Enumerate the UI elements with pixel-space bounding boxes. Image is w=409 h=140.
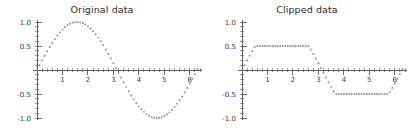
- data-point: [133, 98, 135, 100]
- data-point: [82, 22, 84, 24]
- data-point: [140, 108, 142, 110]
- data-point: [163, 115, 165, 117]
- data-point: [161, 116, 163, 118]
- data-point: [320, 67, 322, 69]
- data-point: [284, 45, 286, 47]
- x-axis-tick-label: 1: [60, 76, 64, 84]
- data-point: [135, 102, 137, 104]
- y-axis-tick-label: 1.0: [20, 19, 31, 27]
- x-axis-tick-label: 5: [367, 76, 371, 84]
- data-point: [289, 45, 291, 47]
- data-point: [184, 91, 186, 93]
- data-point: [351, 93, 353, 95]
- x-axis-tick-label: 4: [342, 76, 347, 84]
- data-point: [41, 60, 43, 62]
- data-point: [46, 50, 48, 52]
- y-axis-tick-label: -0.5: [222, 91, 236, 99]
- data-point: [194, 73, 196, 75]
- data-point: [261, 45, 263, 47]
- data-point: [189, 82, 191, 84]
- data-point: [95, 33, 97, 35]
- data-point: [79, 21, 81, 23]
- data-point: [54, 38, 56, 40]
- data-point: [62, 29, 64, 31]
- data-point: [112, 62, 114, 64]
- data-point: [39, 64, 41, 66]
- data-point: [335, 93, 337, 95]
- data-point: [87, 25, 89, 27]
- data-point: [340, 93, 342, 95]
- data-point: [51, 42, 53, 44]
- data-point: [269, 45, 271, 47]
- data-point: [36, 69, 38, 71]
- data-point: [297, 45, 299, 47]
- data-point: [123, 81, 125, 83]
- data-point: [179, 99, 181, 101]
- data-point: [282, 45, 284, 47]
- data-point: [92, 30, 94, 32]
- figure-canvas: Original data -1.0-0.50.51.0123456 Clipp…: [0, 0, 409, 140]
- data-point: [317, 62, 319, 64]
- data-point: [396, 78, 398, 80]
- original-data-axes: -1.0-0.50.51.0123456: [0, 0, 204, 140]
- data-point: [77, 21, 79, 23]
- data-point: [384, 93, 386, 95]
- data-point: [176, 103, 178, 105]
- data-point: [115, 67, 117, 69]
- data-point: [110, 58, 112, 60]
- data-point: [246, 60, 248, 62]
- data-point: [292, 45, 294, 47]
- data-point: [171, 109, 173, 111]
- data-point: [118, 72, 120, 74]
- data-point: [391, 87, 393, 89]
- data-point: [368, 93, 370, 95]
- y-axis-tick-label: 0.5: [225, 43, 236, 51]
- data-point: [186, 87, 188, 89]
- data-point: [323, 72, 325, 74]
- data-point: [90, 28, 92, 30]
- data-point: [138, 105, 140, 107]
- data-point: [74, 21, 76, 23]
- data-point: [295, 45, 297, 47]
- data-point: [156, 117, 158, 119]
- data-point: [302, 45, 304, 47]
- data-point: [67, 24, 69, 26]
- data-point: [274, 45, 276, 47]
- data-point: [251, 50, 253, 52]
- data-point: [249, 55, 251, 57]
- data-point: [107, 53, 109, 55]
- data-point: [64, 26, 66, 28]
- data-point: [363, 93, 365, 95]
- data-point: [102, 44, 104, 46]
- data-point: [366, 93, 368, 95]
- data-point: [272, 45, 274, 47]
- x-axis-tick-label: 5: [162, 76, 166, 84]
- data-point: [254, 46, 256, 48]
- data-point: [125, 86, 127, 88]
- data-point: [158, 117, 160, 119]
- data-point: [256, 45, 258, 47]
- data-point: [197, 68, 199, 70]
- data-point: [300, 45, 302, 47]
- x-axis-tick-label: 3: [111, 76, 115, 84]
- data-point: [312, 53, 314, 55]
- data-point: [143, 111, 145, 113]
- data-point: [241, 69, 243, 71]
- data-point: [287, 45, 289, 47]
- y-axis-tick-label: -0.5: [17, 91, 31, 99]
- data-point: [105, 49, 107, 51]
- x-axis-tick-label: 3: [316, 76, 320, 84]
- data-point: [130, 94, 132, 96]
- data-point: [343, 93, 345, 95]
- data-point: [307, 45, 309, 47]
- data-point: [381, 93, 383, 95]
- data-point: [371, 93, 373, 95]
- data-point: [259, 45, 261, 47]
- clipped-data-axes: -1.0-0.50.51.0123456: [205, 0, 409, 140]
- data-point: [305, 45, 307, 47]
- x-axis-tick-label: 4: [137, 76, 142, 84]
- data-point: [44, 55, 46, 57]
- data-point: [376, 93, 378, 95]
- data-point: [310, 49, 312, 51]
- data-point: [100, 40, 102, 42]
